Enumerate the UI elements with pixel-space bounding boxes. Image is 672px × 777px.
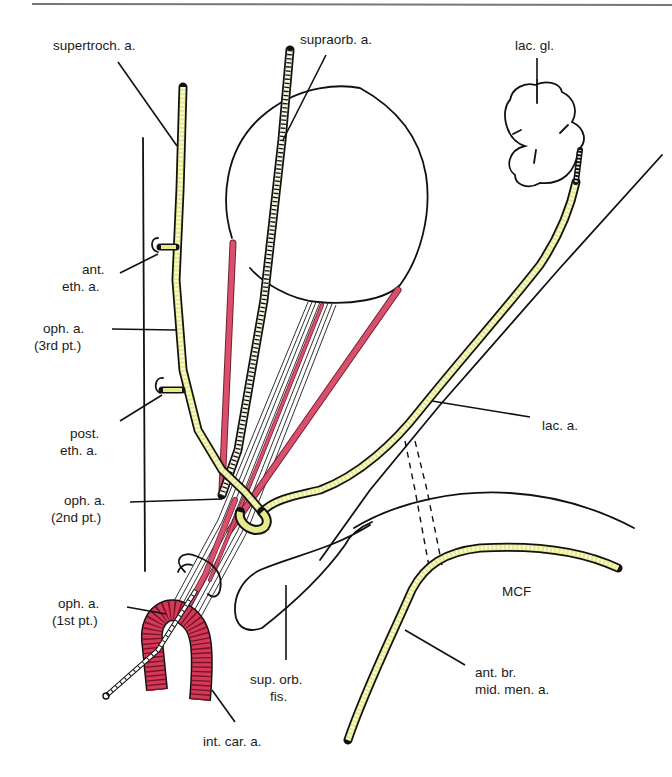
label-oph1-line1: oph. a.: [58, 596, 99, 611]
leader-ant-br: [405, 630, 465, 665]
label-supraorb-artery: supraorb. a.: [300, 32, 372, 47]
sup-orb-fissure: [235, 522, 372, 630]
dashed-vessel-1: [405, 441, 430, 572]
label-ant-br-line2: mid. men. a.: [475, 682, 549, 697]
label-oph2-line1: oph. a.: [64, 493, 105, 508]
label-supertroch-artery: supertroch. a.: [53, 38, 136, 53]
dashed-vessel-2: [415, 441, 443, 570]
label-lacrimal-gland: lac. gl.: [515, 38, 554, 53]
gland-lobe-line-2: [560, 125, 568, 133]
anterior-ethmoidal-artery: [152, 238, 176, 252]
leader-post-eth: [120, 395, 162, 421]
leader-lac-a: [432, 401, 530, 417]
leader-supertroch: [118, 62, 177, 146]
label-oph3-line2: (3rd pt.): [34, 338, 81, 353]
label-ant-br-line1: ant. br.: [475, 665, 516, 680]
label-int-car-artery: int. car. a.: [203, 734, 262, 749]
label-ant-eth-line2: eth. a.: [62, 279, 100, 294]
label-sup-orb-line1: sup. orb.: [250, 672, 303, 687]
leader-ant-eth: [120, 254, 158, 273]
label-oph1-line2: (1st pt.): [52, 613, 98, 628]
top-rule: [32, 4, 672, 5]
sphenoid-ridge: [354, 492, 634, 528]
label-post-eth-line2: eth. a.: [60, 443, 98, 458]
label-lacrimal-artery: lac. a.: [542, 418, 578, 433]
medial-wall-line: [143, 138, 145, 571]
label-oph3-line1: oph. a.: [43, 321, 84, 336]
lacrimal-gland: [505, 82, 584, 186]
medial-rectus-muscle: [222, 243, 233, 490]
label-sup-orb-line2: fis.: [270, 689, 287, 704]
supratrochlear-artery: [176, 87, 262, 512]
label-ant-eth-line1: ant.: [82, 262, 105, 277]
gland-lobe-line-4: [513, 130, 521, 134]
eyeball-outline: [226, 86, 427, 302]
label-mcf: MCF: [502, 584, 531, 599]
lateral-wall-line: [320, 155, 662, 560]
label-oph2-line2: (2nd pt.): [51, 510, 101, 525]
leader-int-car: [212, 690, 235, 722]
leader-oph3: [112, 329, 176, 330]
posterior-ethmoidal-artery: [156, 378, 182, 393]
label-post-eth-line1: post.: [70, 426, 99, 441]
middle-meningeal-anterior-branch: [348, 547, 618, 740]
ophthalmic-artery-diagram: supertroch. a. supraorb. a. lac. gl. ant…: [0, 0, 672, 777]
gland-lobe-line-3: [534, 150, 536, 163]
